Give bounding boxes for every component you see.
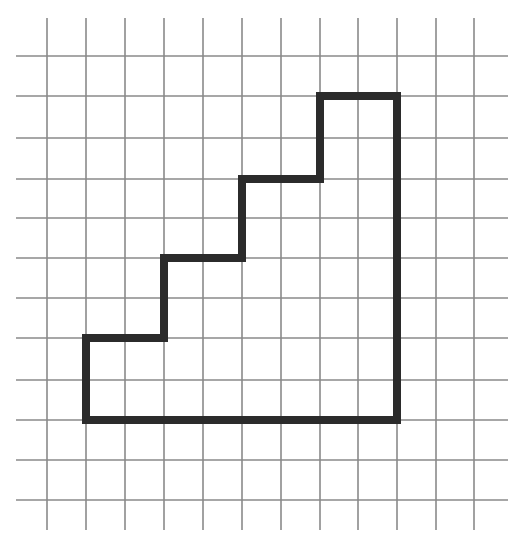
grid-lines <box>16 18 508 530</box>
grid-canvas <box>0 0 518 537</box>
grid-diagram <box>0 0 518 537</box>
